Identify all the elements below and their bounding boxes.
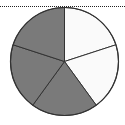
pie-chart: [0, 0, 125, 125]
fraction-pie-diagram: [0, 0, 125, 125]
dotted-rule: [0, 6, 125, 7]
